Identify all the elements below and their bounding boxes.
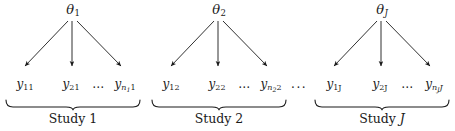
leaf-ynJJ: ynJJ (417, 74, 451, 100)
leaf-y11: y11 (6, 74, 44, 98)
study-group-2: θ2 y12 y22 … yn22 (150, 0, 288, 131)
arrow-theta1-to-yn11 (77, 21, 121, 66)
study-group-1: θ1 y11 y21 … yn11 (4, 0, 142, 131)
arrow-theta2-to-yn22 (223, 21, 267, 66)
theta-subscript: 1 (74, 8, 79, 18)
leaf-row-group-2: y12 y22 … yn22 (150, 74, 288, 94)
group-separator-ellipsis: ... (291, 74, 307, 94)
arrow-thetaJ-to-ynJJ (386, 21, 430, 66)
theta-node-2: θ2 (150, 2, 288, 21)
theta-symbol: θ (212, 2, 220, 17)
leaf-yn22: yn22 (254, 74, 288, 100)
arrow-thetaJ-to-y1J (334, 21, 377, 66)
leaf-y2J: y2J (361, 74, 399, 98)
hierarchical-model-diagram: θ1 y11 y21 … yn11 (0, 0, 455, 131)
theta-symbol: θ (376, 2, 384, 17)
theta-subscript: J (384, 8, 387, 18)
caption-study-2: Study 2 (150, 110, 288, 128)
leaf-y1J: y1J (315, 74, 353, 98)
arrow-theta2-to-y12 (171, 21, 214, 66)
leaf-row-group-1: y11 y21 … yn11 (4, 74, 142, 94)
caption-study-J: Study J (313, 110, 451, 128)
theta-node-J: θJ (313, 2, 451, 21)
leaf-row-group-J: y1J y2J … ynJJ (313, 74, 451, 94)
caption-study-1: Study 1 (4, 110, 142, 128)
theta-subscript: 2 (220, 8, 225, 18)
leaf-yn11: yn11 (108, 74, 142, 100)
theta-symbol: θ (66, 2, 74, 17)
leaf-y22: y22 (198, 74, 236, 98)
study-group-J: θJ y1J y2J … ynJJ (313, 0, 451, 131)
theta-node-1: θ1 (4, 2, 142, 21)
arrow-theta1-to-y11 (25, 21, 68, 66)
leaf-y12: y12 (152, 74, 190, 98)
leaf-y21: y21 (52, 74, 90, 98)
